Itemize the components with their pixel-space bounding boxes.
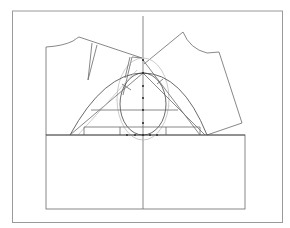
- right-cap-guide: [143, 60, 200, 135]
- right-bodice: [144, 32, 242, 135]
- outer-frame: [13, 11, 283, 223]
- right-cap-guide-2: [143, 73, 205, 135]
- left-cap-guide-2: [78, 70, 137, 135]
- left-cap-label: ·· ···: [115, 98, 121, 102]
- right-cap-label: ·· ···: [166, 104, 172, 108]
- sleeve-body-rect: [46, 135, 245, 209]
- pattern-diagram: ·· ··· ·· ··· ··· ···: [0, 0, 290, 228]
- left-shoulder-dart: [88, 43, 97, 80]
- sleeve-cap-curve: [70, 73, 207, 135]
- right-bottom-label: ···: [159, 130, 162, 134]
- left-bottom-label: ···: [122, 130, 125, 134]
